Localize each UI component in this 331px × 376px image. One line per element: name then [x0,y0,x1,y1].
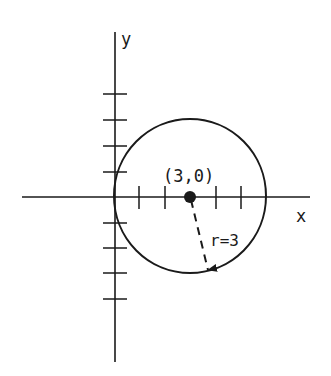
x-axis-label: x [296,206,306,226]
radius-line [191,200,208,270]
center-label: (3,0) [163,166,214,186]
center-point [184,191,196,203]
y-axis-label: y [121,29,131,49]
radius-label: r=3 [210,231,239,250]
diagram-canvas: y x (3,0) r=3 [0,0,331,376]
